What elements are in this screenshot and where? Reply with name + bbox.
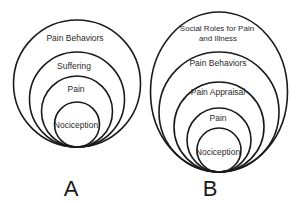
label-b-pain-behaviors: Pain Behaviors: [189, 58, 246, 68]
label-b-social-roles-line1: Social Roles for Pain: [180, 24, 254, 33]
label-a-pain: Pain: [67, 84, 84, 94]
label-b-pain: Pain: [209, 113, 226, 123]
panel-b-caption: B: [203, 176, 218, 201]
nested-circles-diagram: Pain Behaviors Suffering Pain Nociceptio…: [0, 0, 305, 203]
label-a-suffering: Suffering: [57, 61, 91, 71]
panel-a: Pain Behaviors Suffering Pain Nociceptio…: [14, 20, 141, 201]
label-b-nociception: Nociception: [196, 147, 241, 157]
panel-b: Social Roles for Pain and Illness Pain B…: [151, 12, 288, 201]
label-a-pain-behaviors: Pain Behaviors: [46, 33, 103, 43]
label-b-social-roles-line2: and Illness: [199, 34, 237, 43]
label-a-nociception: Nociception: [54, 120, 99, 130]
panel-a-caption: A: [64, 176, 79, 201]
diagram-svg: Pain Behaviors Suffering Pain Nociceptio…: [0, 0, 305, 203]
label-b-pain-appraisal: Pain Appraisal: [191, 87, 245, 97]
